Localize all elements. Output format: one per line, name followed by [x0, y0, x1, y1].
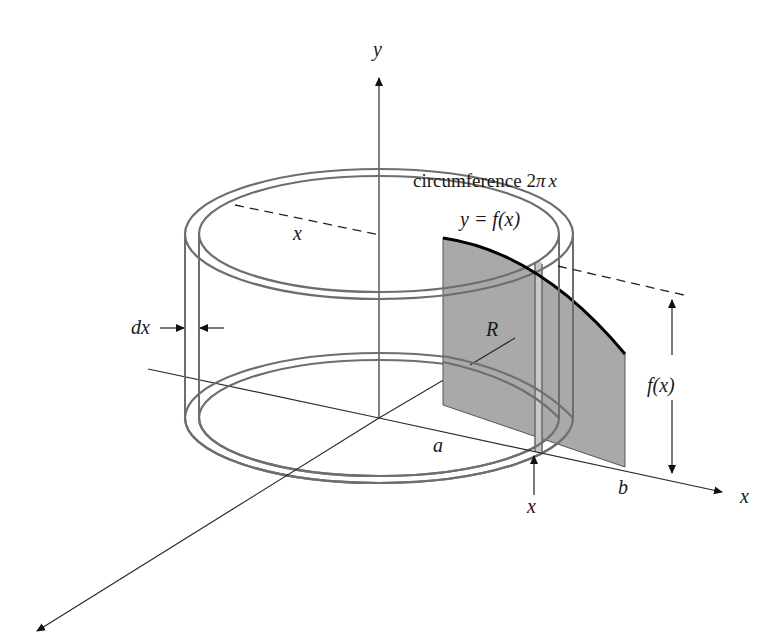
x-axis-label: x — [739, 485, 749, 507]
shell-strip — [535, 262, 542, 452]
R-label: R — [485, 318, 498, 340]
circumference-label: circumference 2πx — [413, 170, 557, 191]
height-reference-dashed — [558, 266, 688, 296]
y-axis-label: y — [371, 38, 382, 61]
a-label: a — [433, 434, 443, 456]
radius-x-dashed — [235, 205, 380, 235]
x-axis-back — [148, 369, 379, 418]
shell-method-diagram: y x circumference 2πx y = f(x) x dx R a … — [0, 0, 783, 636]
x-position-label: x — [526, 495, 536, 517]
b-label: b — [618, 476, 628, 498]
curve-label: y = f(x) — [458, 208, 520, 231]
height-label: f(x) — [647, 374, 675, 397]
dx-label: dx — [131, 316, 150, 338]
radius-x-label: x — [292, 222, 302, 244]
